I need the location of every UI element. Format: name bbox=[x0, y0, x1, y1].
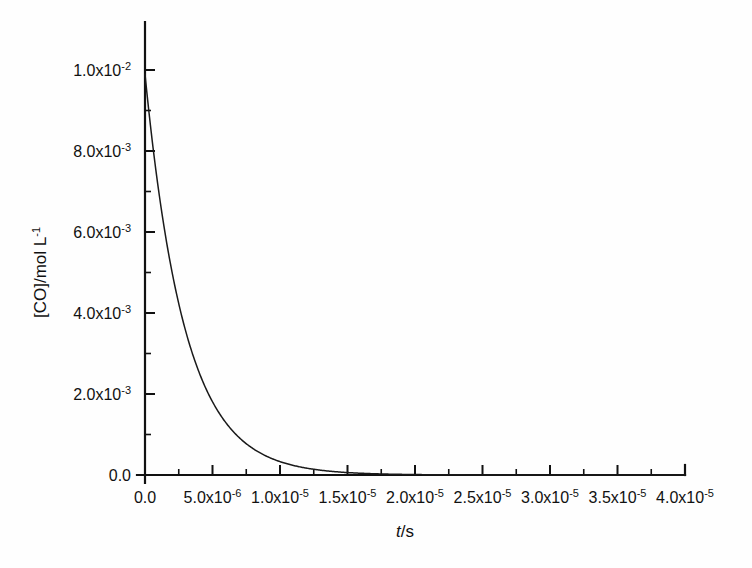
chart-figure: 0.05.0x10-61.0x10-51.5x10-52.0x10-52.5x1… bbox=[0, 0, 752, 568]
y-axis-title: [CO]/mol L-1 bbox=[30, 227, 50, 318]
chart-canvas: 0.05.0x10-61.0x10-51.5x10-52.0x10-52.5x1… bbox=[0, 0, 752, 568]
x-tick-label-0: 0.0 bbox=[134, 489, 156, 506]
x-axis-tick-labels: 0.05.0x10-61.0x10-51.5x10-52.0x10-52.5x1… bbox=[134, 487, 714, 506]
x-axis-title: t/s bbox=[396, 522, 414, 541]
y-tick-label-0: 0.0 bbox=[109, 467, 131, 484]
